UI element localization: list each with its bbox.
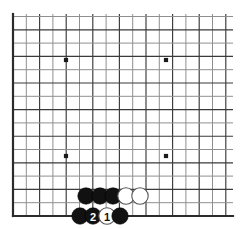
star-top-left [64,58,68,62]
star-bottom-left [64,154,68,158]
go-board-svg: 21 [0,0,240,229]
star-bottom-right [164,154,168,158]
grid-lines [13,14,233,216]
black-stone-disc [112,208,128,224]
star-top-right [164,58,168,62]
board-edge-lines [13,14,233,216]
go-board-diagram: 21 [0,0,240,229]
white-stone-disc [132,188,148,204]
stone-white-e [132,188,148,204]
stone-black-g [112,208,128,224]
stones-layer: 21 [72,188,148,224]
